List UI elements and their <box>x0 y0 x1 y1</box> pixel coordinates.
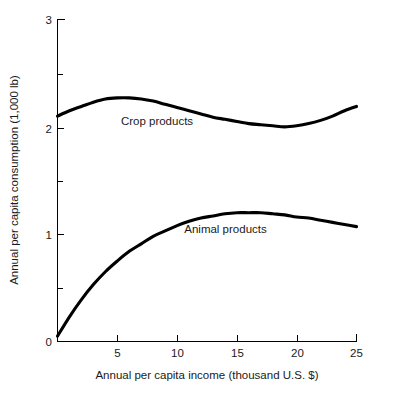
y-tick-label-1: 1 <box>46 229 52 241</box>
x-axis-tick-labels: 5 10 15 20 25 <box>114 347 363 359</box>
chart-figure: 0 1 2 3 5 10 15 20 25 Crop products Anim… <box>0 0 402 397</box>
series-line-crop-products <box>58 98 357 127</box>
y-axis-minor-ticks <box>58 75 63 289</box>
x-axis-title: Annual per capita income (thousand U.S. … <box>95 369 318 381</box>
y-axis-tick-labels: 0 1 2 3 <box>46 14 52 348</box>
x-tick-label-5: 5 <box>114 347 120 359</box>
data-series <box>58 98 357 336</box>
series-annotations: Crop products Animal products <box>121 115 267 235</box>
y-axis-major-ticks <box>58 20 65 342</box>
x-tick-label-15: 15 <box>231 347 244 359</box>
y-tick-label-2: 2 <box>46 123 52 135</box>
y-tick-label-0: 0 <box>46 336 52 348</box>
x-axis-major-ticks <box>118 335 357 342</box>
series-label-crop-products: Crop products <box>121 115 193 127</box>
x-tick-label-10: 10 <box>171 347 184 359</box>
y-axis-title: Annual per capita consumption (1,000 lb) <box>8 75 20 285</box>
y-tick-label-3: 3 <box>46 14 52 26</box>
chart-canvas: 0 1 2 3 5 10 15 20 25 Crop products Anim… <box>0 0 402 397</box>
x-tick-label-20: 20 <box>291 347 304 359</box>
series-label-animal-products: Animal products <box>184 223 267 235</box>
axes <box>57 19 357 342</box>
x-tick-label-25: 25 <box>350 347 363 359</box>
